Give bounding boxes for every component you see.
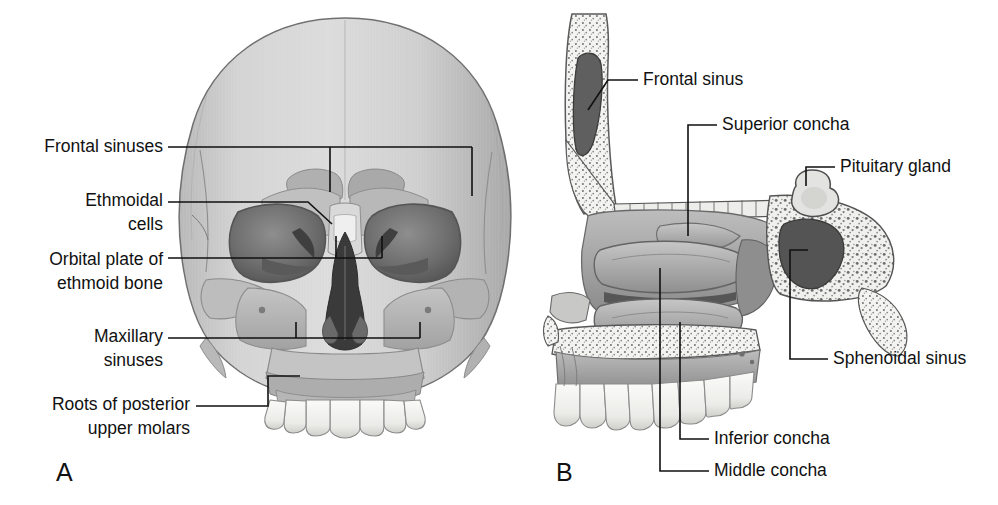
- anatomy-figure: Frontal sinuses Ethmoidal cells Orbital …: [0, 0, 998, 505]
- tooth-incisor-lateral-left: [306, 400, 330, 436]
- label-maxillary-sinuses-line2: sinuses: [104, 350, 164, 370]
- tooth-b-6: [678, 380, 706, 424]
- panel-letter-b: B: [556, 458, 573, 486]
- tooth-b-2: [580, 384, 606, 428]
- label-frontal-sinus: Frontal sinus: [643, 69, 743, 89]
- label-frontal-sinuses: Frontal sinuses: [44, 136, 163, 156]
- label-pituitary-gland: Pituitary gland: [840, 156, 951, 176]
- label-middle-concha: Middle concha: [714, 460, 827, 480]
- figure-canvas: Frontal sinuses Ethmoidal cells Orbital …: [0, 0, 998, 505]
- tooth-b-7: [704, 376, 730, 417]
- palatine-foramen-minor: [750, 360, 754, 364]
- pituitary-shading: [801, 187, 827, 209]
- label-inferior-concha: Inferior concha: [714, 428, 830, 448]
- hard-palate: [552, 325, 760, 359]
- tooth-b-4: [628, 384, 654, 430]
- palatine-foramen: [739, 351, 744, 356]
- tooth-incisor-lateral-right: [360, 400, 384, 436]
- upper-teeth: [265, 390, 425, 438]
- tooth-b-3: [604, 384, 630, 430]
- tooth-canine-right: [384, 400, 406, 433]
- label-ethmoidal-cells-line2: cells: [128, 214, 163, 234]
- label-roots-molars-line2: upper molars: [88, 418, 190, 438]
- tooth-b-5: [652, 382, 680, 428]
- label-roots-molars-line1: Roots of posterior: [52, 394, 190, 414]
- tooth-incisor-central-left: [330, 400, 360, 438]
- middle-concha: [594, 241, 745, 293]
- nasal-vestibule: [550, 293, 590, 323]
- infraorbital-foramen-left: [259, 307, 265, 313]
- panel-letter-a: A: [56, 458, 73, 486]
- label-orbital-plate-line2: ethmoid bone: [57, 273, 163, 293]
- tooth-b-1: [554, 384, 580, 426]
- label-ethmoidal-cells-line1: Ethmoidal: [85, 190, 163, 210]
- infraorbital-foramen-right: [425, 307, 431, 313]
- label-superior-concha: Superior concha: [722, 114, 850, 134]
- label-maxillary-sinuses-line1: Maxillary: [94, 326, 163, 346]
- label-sphenoidal-sinus: Sphenoidal sinus: [833, 348, 967, 368]
- tooth-canine-left: [284, 400, 306, 433]
- label-orbital-plate-line1: Orbital plate of: [49, 249, 163, 269]
